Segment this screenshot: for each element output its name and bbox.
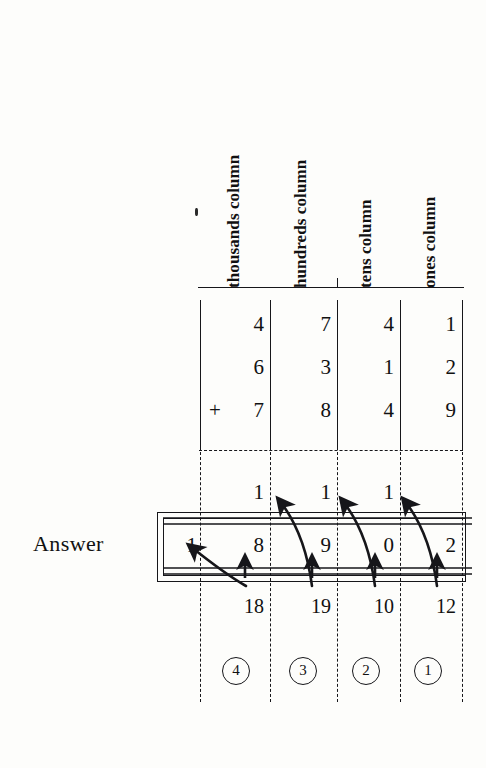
top-rule-tick [337, 278, 338, 288]
addend1-thousands: 4 [230, 312, 264, 337]
column-sum-tens: 10 [347, 595, 394, 618]
addend1-ones: 1 [422, 312, 456, 337]
step-number-ones: 1 [414, 657, 442, 685]
answer-digit-ones: 2 [422, 533, 456, 558]
addend2-hundreds: 3 [297, 355, 331, 380]
column-header-tens: tens column [356, 200, 376, 288]
addend2-tens: 1 [360, 355, 394, 380]
divider-hundreds-tens-solid [337, 300, 338, 450]
addend3-thousands: 7 [230, 398, 264, 423]
column-header-hundreds: hundreds column [291, 160, 311, 288]
answer-digit-thousands: 8 [230, 533, 264, 558]
addend3-ones: 9 [422, 398, 456, 423]
answer-label: Answer [33, 531, 104, 557]
column-sum-hundreds: 19 [284, 595, 331, 618]
addend2-thousands: 6 [230, 355, 264, 380]
column-header-thousands: thousands column [224, 155, 244, 288]
step-number-tens: 2 [352, 657, 380, 685]
top-rule [198, 287, 464, 288]
answer-digit-tens: 0 [360, 533, 394, 558]
addend2-ones: 2 [422, 355, 456, 380]
column-sum-ones: 12 [409, 595, 456, 618]
carry-thousands: 1 [230, 480, 264, 505]
step-number-hundreds: 3 [289, 657, 317, 685]
worksheet-diagram: thousands column hundreds column tens co… [0, 0, 486, 768]
answer-digit-ten-thousands: 1 [163, 533, 197, 558]
divider-right-edge-solid [462, 300, 463, 450]
divider-left-edge-solid [200, 300, 201, 450]
carry-tens: 1 [360, 480, 394, 505]
carry-hundreds: 1 [297, 480, 331, 505]
addend1-hundreds: 7 [297, 312, 331, 337]
addend3-hundreds: 8 [297, 398, 331, 423]
divider-tens-ones-solid [400, 300, 401, 450]
addend-underline-dashed [199, 450, 463, 451]
addend3-tens: 4 [360, 398, 394, 423]
addend1-tens: 4 [360, 312, 394, 337]
column-sum-thousands: 18 [217, 595, 264, 618]
scan-speck [195, 208, 198, 216]
plus-operator: + [209, 398, 221, 423]
divider-thousands-hundreds-solid [270, 300, 271, 450]
arrow-overlay [0, 0, 486, 768]
answer-digit-hundreds: 9 [297, 533, 331, 558]
step-number-thousands: 4 [222, 657, 250, 685]
column-header-ones: ones column [420, 197, 440, 288]
